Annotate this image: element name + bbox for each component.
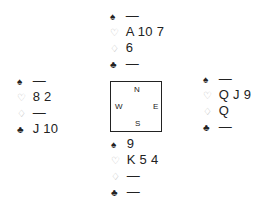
south-clubs: ♣ — bbox=[111, 184, 158, 200]
east-hand: ♠ — ♡ Q J 9 ♢ Q ♣ — bbox=[203, 71, 251, 135]
heart-icon: ♡ bbox=[17, 90, 29, 106]
west-hearts-cards: 8 2 bbox=[33, 89, 52, 104]
club-icon: ♣ bbox=[203, 120, 215, 136]
south-clubs-cards: — bbox=[127, 184, 140, 199]
north-spades: ♠ — bbox=[110, 8, 164, 24]
club-icon: ♣ bbox=[110, 57, 122, 73]
spade-icon: ♠ bbox=[17, 74, 29, 90]
west-clubs-cards: J 10 bbox=[33, 121, 59, 136]
north-diamonds-cards: 6 bbox=[126, 40, 134, 55]
club-icon: ♣ bbox=[17, 122, 29, 138]
east-clubs-cards: — bbox=[219, 119, 232, 134]
compass-south-label: S bbox=[135, 120, 140, 128]
diamond-icon: ♢ bbox=[17, 106, 29, 122]
north-hearts: ♡ A 10 7 bbox=[110, 24, 164, 40]
east-hearts: ♡ Q J 9 bbox=[203, 87, 251, 103]
compass-west-label: W bbox=[115, 103, 123, 111]
north-hand: ♠ — ♡ A 10 7 ♢ 6 ♣ — bbox=[110, 8, 164, 72]
heart-icon: ♡ bbox=[203, 88, 215, 104]
west-clubs: ♣ J 10 bbox=[17, 121, 58, 137]
east-diamonds: ♢ Q bbox=[203, 103, 251, 119]
east-diamonds-cards: Q bbox=[219, 103, 229, 118]
west-diamonds: ♢ — bbox=[17, 105, 58, 121]
compass-east-label: E bbox=[153, 103, 158, 111]
south-hearts-cards: K 5 4 bbox=[127, 152, 159, 167]
west-hearts: ♡ 8 2 bbox=[17, 89, 58, 105]
heart-icon: ♡ bbox=[111, 153, 123, 169]
west-diamonds-cards: — bbox=[33, 105, 46, 120]
compass-box: N W E S bbox=[110, 81, 162, 132]
east-spades: ♠ — bbox=[203, 71, 251, 87]
north-spades-cards: — bbox=[126, 8, 139, 23]
diamond-icon: ♢ bbox=[111, 169, 123, 185]
south-hand: ♠ 9 ♡ K 5 4 ♢ — ♣ — bbox=[111, 136, 158, 200]
compass-north-label: N bbox=[134, 86, 140, 94]
south-diamonds: ♢ — bbox=[111, 168, 158, 184]
heart-icon: ♡ bbox=[110, 25, 122, 41]
club-icon: ♣ bbox=[111, 185, 123, 201]
east-hearts-cards: Q J 9 bbox=[219, 87, 252, 102]
south-hearts: ♡ K 5 4 bbox=[111, 152, 158, 168]
north-clubs-cards: — bbox=[126, 56, 139, 71]
diamond-icon: ♢ bbox=[110, 41, 122, 57]
north-clubs: ♣ — bbox=[110, 56, 164, 72]
south-diamonds-cards: — bbox=[127, 168, 140, 183]
diamond-icon: ♢ bbox=[203, 104, 215, 120]
south-spades: ♠ 9 bbox=[111, 136, 158, 152]
east-clubs: ♣ — bbox=[203, 119, 251, 135]
spade-icon: ♠ bbox=[110, 9, 122, 25]
west-spades: ♠ — bbox=[17, 73, 58, 89]
spade-icon: ♠ bbox=[203, 72, 215, 88]
east-spades-cards: — bbox=[219, 71, 232, 86]
west-spades-cards: — bbox=[33, 73, 46, 88]
spade-icon: ♠ bbox=[111, 137, 123, 153]
west-hand: ♠ — ♡ 8 2 ♢ — ♣ J 10 bbox=[17, 73, 58, 137]
south-spades-cards: 9 bbox=[127, 136, 135, 151]
north-diamonds: ♢ 6 bbox=[110, 40, 164, 56]
north-hearts-cards: A 10 7 bbox=[126, 24, 165, 39]
